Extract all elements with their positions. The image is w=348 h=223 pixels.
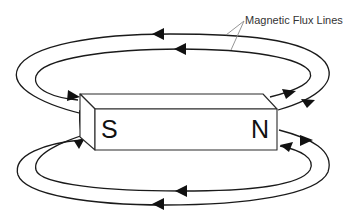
arrow-icon	[282, 89, 296, 99]
arrow-icon	[152, 198, 164, 210]
bar-magnet: S N	[80, 94, 277, 150]
arrow-icon	[300, 135, 313, 146]
arrow-icon	[152, 28, 164, 40]
arrow-icon	[301, 99, 315, 108]
arrow-icon	[175, 185, 187, 197]
flux-lines-annotation: Magnetic Flux Lines	[226, 14, 343, 50]
flux-line-inner-top	[36, 43, 311, 101]
arrow-icon	[174, 43, 186, 55]
annotation-label: Magnetic Flux Lines	[245, 14, 343, 26]
magnet-front-face	[95, 109, 277, 150]
magnet-flux-diagram: S N Magnetic Flux Lines	[0, 0, 348, 223]
north-pole-label: N	[251, 115, 269, 143]
magnet-top-face	[80, 94, 277, 109]
south-pole-label: S	[101, 115, 118, 143]
